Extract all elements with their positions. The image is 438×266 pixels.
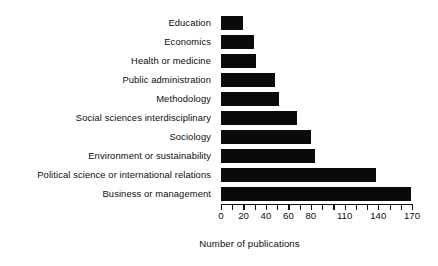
bar xyxy=(221,54,256,68)
axis-tick xyxy=(221,204,222,210)
bar-row: Environment or sustainability xyxy=(0,147,438,165)
axis-tick xyxy=(333,204,334,210)
bar xyxy=(221,187,411,201)
x-axis-line xyxy=(221,204,412,205)
axis-tick xyxy=(401,204,402,210)
axis-tick xyxy=(232,204,233,210)
axis-tick xyxy=(356,204,357,210)
bar xyxy=(221,149,315,163)
x-axis-title-text: Number of publications xyxy=(199,238,299,249)
axis-tick xyxy=(243,204,244,210)
axis-tick xyxy=(390,204,391,210)
bar xyxy=(221,92,279,106)
category-label: Social sciences interdisciplinary xyxy=(76,109,217,127)
bar-chart-figure: EducationEconomicsHealth or medicinePubl… xyxy=(0,0,438,266)
bar xyxy=(221,168,376,182)
axis-tick-label: 60 xyxy=(283,210,294,221)
bar-row: Health or medicine xyxy=(0,52,438,70)
axis-tick-label: 20 xyxy=(238,210,249,221)
bar-row: Education xyxy=(0,14,438,32)
category-label: Methodology xyxy=(156,90,217,108)
category-label: Health or medicine xyxy=(131,52,217,70)
category-label: Education xyxy=(168,14,217,32)
axis-tick xyxy=(367,204,368,210)
bar xyxy=(221,73,275,87)
bar xyxy=(221,16,243,30)
axis-tick-label: 40 xyxy=(261,210,272,221)
axis-tick-label: 170 xyxy=(404,210,420,221)
axis-tick xyxy=(378,204,379,210)
axis-tick xyxy=(412,204,413,210)
bar-row: Sociology xyxy=(0,128,438,146)
bar-row: Methodology xyxy=(0,90,438,108)
axis-tick xyxy=(300,204,301,210)
bar-row: Social sciences interdisciplinary xyxy=(0,109,438,127)
axis-tick xyxy=(288,204,289,210)
category-label: Environment or sustainability xyxy=(88,147,217,165)
axis-tick xyxy=(322,204,323,210)
axis-tick-label: 110 xyxy=(337,210,352,221)
bar-row: Economics xyxy=(0,33,438,51)
axis-tick xyxy=(345,204,346,210)
bar-row: Political science or international relat… xyxy=(0,166,438,184)
category-label: Business or management xyxy=(102,185,217,203)
bar xyxy=(221,130,311,144)
category-label: Political science or international relat… xyxy=(37,166,217,184)
axis-tick xyxy=(311,204,312,210)
bar xyxy=(221,35,254,49)
axis-tick-label: 140 xyxy=(370,210,386,221)
bar xyxy=(221,111,297,125)
category-label: Sociology xyxy=(169,128,217,146)
axis-tick xyxy=(255,204,256,210)
x-axis-title: Number of publications xyxy=(0,238,438,249)
bar-row: Public administration xyxy=(0,71,438,89)
axis-tick xyxy=(277,204,278,210)
bar-row: Business or management xyxy=(0,185,438,203)
axis-tick xyxy=(266,204,267,210)
axis-tick-label: 80 xyxy=(306,210,317,221)
axis-tick-label: 0 xyxy=(218,210,223,221)
category-label: Public administration xyxy=(122,71,217,89)
plot-area: EducationEconomicsHealth or medicinePubl… xyxy=(0,0,438,266)
category-label: Economics xyxy=(164,33,217,51)
